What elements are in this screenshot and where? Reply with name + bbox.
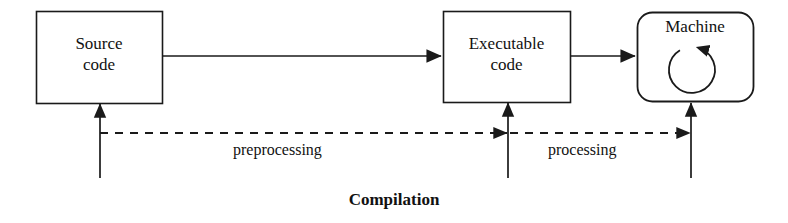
node-executable-code — [444, 12, 571, 103]
node-machine — [638, 13, 754, 102]
node-source-code — [37, 12, 163, 104]
compilation-diagram: Source code Executable code Machine prep… — [0, 0, 788, 223]
diagram-caption: Compilation — [0, 190, 788, 210]
edge-label-preprocessing: preprocessing — [233, 141, 322, 159]
edge-label-processing: processing — [548, 141, 616, 159]
